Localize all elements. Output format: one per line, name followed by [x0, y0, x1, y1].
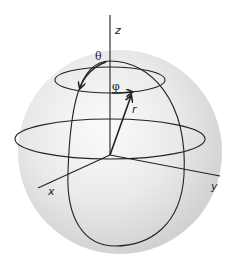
x-axis-label: x — [47, 185, 55, 198]
theta-label: θ — [95, 50, 102, 63]
y-axis-label: y — [210, 180, 218, 193]
z-axis-label: z — [114, 24, 121, 37]
spherical-coordinates-diagram: z x y θ φ r — [0, 0, 240, 260]
sphere — [18, 50, 222, 254]
phi-label: φ — [112, 80, 120, 93]
